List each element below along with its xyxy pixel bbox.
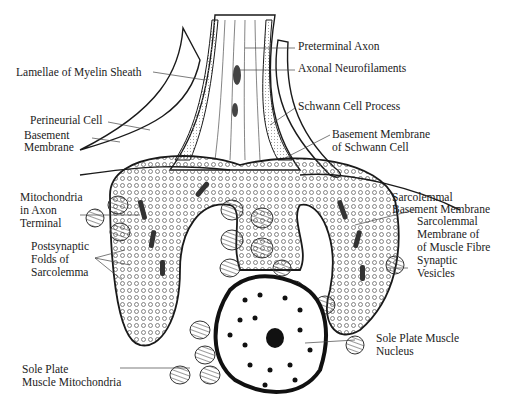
label-preterminal-axon: Preterminal Axon	[298, 40, 379, 53]
label-mito-axon-3: Terminal	[20, 217, 61, 230]
label-postsyn-3: Sarcolemma	[31, 266, 88, 279]
sole-plate-nucleus	[216, 276, 326, 392]
label-bm-schwann-1: Basement Membrane	[332, 128, 430, 141]
label-postsyn-2: Folds of	[31, 253, 69, 266]
neuromuscular-junction-diagram: Preterminal Axon Lamellae of Myelin Shea…	[0, 0, 515, 409]
label-nucleus-2: Nucleus	[376, 345, 414, 358]
label-postsyn-1: Postsynaptic	[31, 240, 89, 253]
label-synaptic-2: Vesicles	[417, 267, 455, 280]
label-sole-mito-2: Muscle Mitochondria	[22, 376, 121, 389]
label-sarco-mem-2: Membrane of	[417, 228, 479, 241]
label-nucleus-1: Sole Plate Muscle	[376, 332, 459, 345]
label-perineurial-cell: Perineurial Cell	[30, 114, 103, 127]
label-sarco-mem-1: Sarcolemmal	[417, 215, 478, 228]
label-mito-axon-2: in Axon	[20, 204, 57, 217]
label-sole-mito-1: Sole Plate	[22, 363, 68, 376]
label-axonal-neurofilaments: Axonal Neurofilaments	[298, 62, 406, 75]
label-basement-membrane-2: Membrane	[24, 141, 74, 154]
label-mito-axon-1: Mitochondria	[20, 191, 83, 204]
label-lamellae-myelin: Lamellae of Myelin Sheath	[16, 66, 142, 79]
perineurial-cell-left	[80, 28, 200, 150]
label-synaptic-1: Synaptic	[417, 254, 457, 267]
label-bm-schwann-2: of Schwann Cell	[332, 141, 409, 154]
label-schwann-cell-process: Schwann Cell Process	[298, 100, 400, 113]
label-sarco-mem-3: of Muscle Fibre	[417, 241, 490, 254]
